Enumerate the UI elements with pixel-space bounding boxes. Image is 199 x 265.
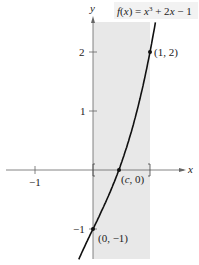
x-axis-arrow-icon bbox=[179, 168, 186, 172]
point-label-0-neg1: (0, −1) bbox=[98, 232, 128, 245]
y-axis-label: y bbox=[89, 2, 95, 14]
point-0-neg1 bbox=[91, 227, 95, 231]
function-label: f(x) = x3 + 2x − 1 bbox=[117, 5, 192, 18]
y-axis-arrow-icon bbox=[91, 16, 95, 23]
x-axis-label: x bbox=[187, 163, 193, 175]
x-tick-label-neg1: −1 bbox=[29, 176, 41, 188]
y-tick-label-neg1: −1 bbox=[73, 223, 85, 235]
y-tick-label-2: 2 bbox=[79, 46, 85, 58]
y-tick-label-1: 1 bbox=[80, 105, 86, 117]
graph: x y −1 2 1 −1 (1, 2) (c, 0) (0, −1) f(x)… bbox=[0, 0, 199, 265]
point-c-0 bbox=[117, 168, 121, 172]
shaded-interval bbox=[93, 22, 150, 259]
point-label-c-0: (c, 0) bbox=[121, 173, 145, 186]
point-label-1-2: (1, 2) bbox=[154, 46, 178, 59]
point-1-2 bbox=[148, 50, 152, 54]
